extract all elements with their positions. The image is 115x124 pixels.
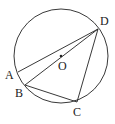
label-b: B <box>15 86 23 100</box>
label-a: A <box>5 68 14 82</box>
circle-diagram: O D A B C <box>0 0 115 124</box>
segment-cd <box>77 29 98 102</box>
label-d: D <box>100 14 109 28</box>
label-c: C <box>73 105 81 119</box>
center-point-o <box>60 55 63 58</box>
label-o: O <box>58 59 67 73</box>
